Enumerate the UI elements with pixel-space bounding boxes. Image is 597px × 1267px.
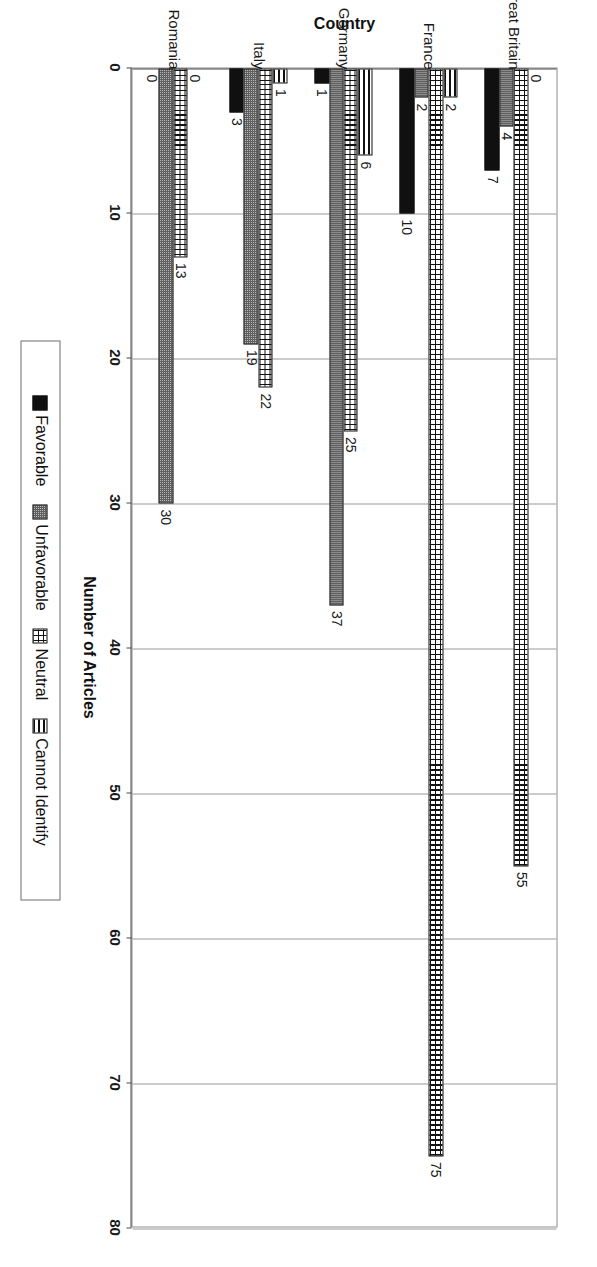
value-axis-title: Number of Articles [79,67,97,1227]
bar-cannot-identify [358,68,372,155]
bar-neutral [173,68,187,257]
value-axis-tick-label: 30 [106,494,123,511]
legend-swatch-icon [33,395,48,410]
axis-tick [126,647,131,648]
bar-value-label: 25 [342,437,358,453]
bar-favorable [229,68,243,112]
axis-tick [126,937,131,938]
axis-tick [126,212,131,213]
legend-swatch-icon [33,628,48,643]
value-axis-tick-label: 80 [106,1219,123,1236]
axis-tick [126,1227,131,1228]
bar-value-label: 6 [357,161,373,169]
legend-item-cannot-identify[interactable]: Cannot Identify [31,718,49,846]
bar-neutral [428,68,442,1156]
rotated-figure-canvas: 74550102752137256319221030130 0102030405… [0,0,597,1267]
bar-value-label: 19 [243,350,259,366]
bar-neutral [513,68,527,866]
bar-value-label: 30 [157,509,173,525]
bar-chart-figure: 74550102752137256319221030130 0102030405… [0,0,597,1267]
gridline [132,1228,556,1229]
bar-value-label: 0 [527,74,543,82]
bar-unfavorable [414,68,428,97]
value-axis-tick-label: 50 [106,784,123,801]
value-axis-tick-label: 20 [106,349,123,366]
bar-cannot-identify [443,68,457,97]
axis-tick [126,67,131,68]
legend-swatch-icon [33,504,48,519]
bar-neutral [343,68,357,431]
chart-legend: FavorableUnfavorableNeutralCannot Identi… [20,340,60,900]
bar-value-label: 75 [427,1162,443,1178]
bar-unfavorable [243,68,257,344]
bar-value-label: 4 [498,132,514,140]
bar-favorable [314,68,328,83]
bar-unfavorable [158,68,172,503]
gridline [132,648,556,649]
legend-item-neutral[interactable]: Neutral [31,628,49,700]
axis-tick [126,357,131,358]
category-axis-tick-label: Great Britain [506,0,523,69]
bar-value-label: 1 [272,89,288,97]
legend-label: Unfavorable [31,524,49,610]
bar-unfavorable [499,68,513,126]
legend-label: Neutral [31,648,49,700]
plot-area: 74550102752137256319221030130 [131,67,557,1227]
category-axis-tick-label: France [421,0,438,69]
bar-value-label: 7 [484,176,500,184]
bar-value-label: 0 [186,74,202,82]
category-axis-tick-label: Germany [336,0,353,69]
legend-swatch-icon [33,718,48,733]
bar-value-label: 22 [257,393,273,409]
legend-item-favorable[interactable]: Favorable [31,395,49,486]
value-axis-tick-label: 0 [106,63,123,71]
bar-value-label: 55 [513,872,529,888]
bar-value-label: 3 [228,118,244,126]
bar-value-label: 37 [328,611,344,627]
axis-tick [126,502,131,503]
axis-tick [126,1082,131,1083]
bar-cannot-identify [272,68,286,83]
value-axis-tick-label: 60 [106,929,123,946]
value-axis-tick-label: 10 [106,204,123,221]
bar-value-label: 1 [313,89,329,97]
value-axis-tick-label: 40 [106,639,123,656]
bar-favorable [399,68,413,213]
bar-neutral [258,68,272,387]
category-axis-tick-label: Romania [165,0,182,69]
gridline [132,503,556,504]
gridline [132,1083,556,1084]
legend-item-unfavorable[interactable]: Unfavorable [31,504,49,610]
legend-label: Favorable [31,415,49,486]
category-axis-tick-label: Italy [250,0,267,69]
axis-tick [126,792,131,793]
gridline [132,938,556,939]
value-axis-tick-label: 70 [106,1074,123,1091]
bar-unfavorable [329,68,343,605]
bar-favorable [484,68,498,170]
gridline [132,793,556,794]
bar-value-label: 2 [413,103,429,111]
bar-value-label: 13 [172,263,188,279]
bar-value-label: 10 [398,219,414,235]
bar-value-label: 0 [143,74,159,82]
bar-value-label: 2 [442,103,458,111]
legend-label: Cannot Identify [31,738,49,846]
